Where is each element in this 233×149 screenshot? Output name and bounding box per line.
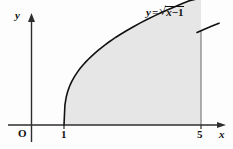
curve-equation-label: y=√x−1 — [146, 6, 184, 18]
radical-expression: √x−1 — [159, 6, 184, 18]
radical-sign-icon: √ — [159, 5, 166, 17]
y-axis-arrow-icon — [28, 13, 35, 22]
x-tick-label-5: 5 — [197, 129, 203, 140]
figure-container: y x O 1 5 y=√x−1 — [0, 0, 233, 149]
equation-relation: = — [151, 6, 159, 18]
x-axis-label: x — [219, 129, 225, 140]
radicand: x−1 — [165, 6, 184, 18]
origin-label: O — [18, 128, 27, 139]
plot-canvas — [0, 0, 233, 149]
y-axis-label: y — [15, 10, 20, 21]
x-tick-label-1: 1 — [61, 129, 67, 140]
radicand-constant: 1 — [178, 6, 184, 18]
